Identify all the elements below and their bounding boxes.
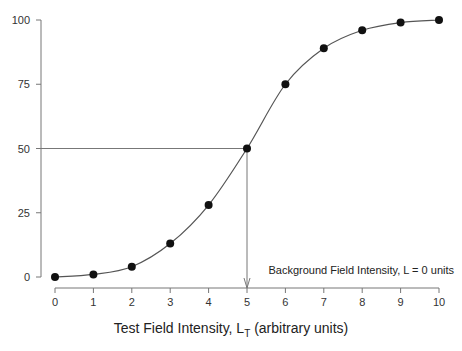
psychometric-chart: 0255075100 012345678910 Background Field… [0,0,462,351]
data-point [397,19,405,27]
x-tick-label: 7 [321,296,327,308]
x-tick-label: 1 [90,296,96,308]
data-point [166,240,174,248]
data-point [320,44,328,52]
x-tick-label: 5 [244,296,250,308]
y-tick-label: 0 [24,271,30,283]
data-point [358,26,366,34]
x-axis-label: Test Field Intensity, LT (arbitrary unit… [114,320,349,339]
x-axis: 012345678910 [52,288,445,308]
data-point [51,273,59,281]
x-tick-label: 0 [52,296,58,308]
background-annotation: Background Field Intensity, L = 0 units [268,264,454,276]
threshold-guides [41,149,250,289]
y-tick-label: 25 [18,207,30,219]
data-point [89,270,97,278]
y-tick-label: 50 [18,143,30,155]
data-point [243,145,251,153]
x-tick-label: 8 [359,296,365,308]
y-tick-label: 100 [12,14,30,26]
x-tick-label: 2 [129,296,135,308]
x-tick-label: 6 [282,296,288,308]
x-tick-label: 10 [433,296,445,308]
data-point [281,80,289,88]
x-tick-label: 9 [398,296,404,308]
data-point [435,16,443,24]
data-point [128,263,136,271]
data-point [205,201,213,209]
y-axis: 0255075100 [12,14,41,283]
y-tick-label: 75 [18,78,30,90]
x-tick-label: 3 [167,296,173,308]
x-tick-label: 4 [206,296,212,308]
